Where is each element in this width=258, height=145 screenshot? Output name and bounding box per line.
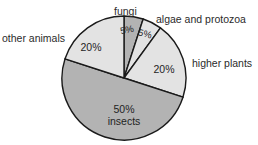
pie-chart-figure: other animals fungi algae and protozoa h…: [0, 0, 258, 145]
pie-value-insects-name: insects: [94, 116, 154, 128]
pie-outer-label-fungi: fungi: [114, 6, 137, 17]
pie-outer-label-higher-plants: higher plants: [192, 58, 252, 69]
pie-value-higher-plants: 20%: [147, 64, 181, 76]
pie-outer-label-other-animals: other animals: [2, 33, 65, 44]
pie-value-other-animals: 20%: [74, 42, 108, 54]
pie-outer-label-algae-and-protozoa: algae and protozoa: [156, 14, 246, 25]
pie-value-insects-percent: 50%: [94, 104, 154, 116]
pie-value-insects: 50% insects: [94, 104, 154, 127]
